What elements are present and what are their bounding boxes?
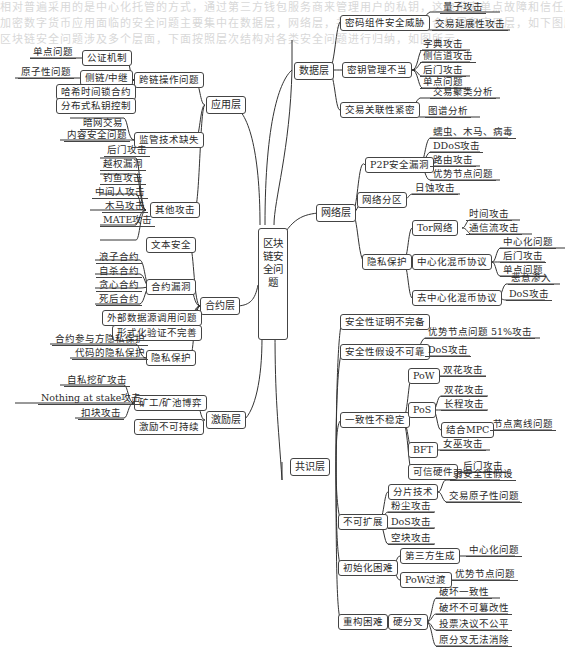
consensus-unstable: 一致性不稳定 bbox=[340, 412, 410, 428]
leaf: 代码的隐私保护 bbox=[72, 346, 148, 360]
leaf: 粉尘攻击 bbox=[388, 499, 434, 513]
leaf: 优势节点问题 bbox=[452, 567, 518, 581]
contract-text-security: 文本安全 bbox=[146, 237, 196, 253]
leaf: 中心化问题 bbox=[500, 235, 556, 249]
app-other-attacks: 其他攻击 bbox=[150, 202, 200, 218]
root-node-blockchain-security: 区块链安全问题 bbox=[258, 228, 288, 340]
contract-vulnerability: 合约漏洞 bbox=[146, 279, 196, 295]
leaf: 木马攻击 bbox=[102, 199, 148, 213]
consensus-proof-incomplete: 安全性证明不完备 bbox=[340, 314, 430, 330]
leaf: Nothing at stake攻击 bbox=[38, 391, 144, 405]
leaf: 图谱分析 bbox=[425, 104, 471, 118]
data-key-mgmt: 密钥管理不当 bbox=[342, 62, 412, 78]
leaf: 合约参与方隐私保护 bbox=[52, 332, 148, 346]
leaf: 女巫攻击 bbox=[440, 437, 486, 451]
leaf: 交易原子性问题 bbox=[446, 489, 522, 503]
leaf: 双花攻击 bbox=[440, 363, 486, 377]
leaf: 蠕虫、木马、病毒 bbox=[430, 125, 516, 139]
consensus-rebuild-difficulty: 重构困难 bbox=[338, 614, 388, 630]
app-notary: 公证机制 bbox=[82, 50, 132, 66]
leaf: 原子性问题 bbox=[18, 65, 74, 79]
leaf: 后门攻击 bbox=[104, 143, 150, 157]
leaf: 后门攻击 bbox=[500, 249, 546, 263]
leaf: DDoS攻击 bbox=[430, 139, 483, 153]
leaf: 原分叉无法消除 bbox=[436, 633, 512, 647]
layer-consensus: 共识层 bbox=[290, 458, 330, 476]
consensus-third-party: 第三方生成 bbox=[400, 548, 460, 564]
leaf: 空块攻击 bbox=[388, 531, 434, 545]
layer-network: 网络层 bbox=[316, 204, 356, 222]
leaf: 自杀合约 bbox=[96, 264, 142, 278]
incentive-unsustainable: 激励不可持续 bbox=[134, 419, 204, 435]
leaf: 日蚀攻击 bbox=[412, 181, 458, 195]
leaf: MATE攻击 bbox=[100, 213, 155, 227]
leaf: 钓鱼攻击 bbox=[100, 171, 146, 185]
contract-external-data: 外部数据源调用问题 bbox=[102, 310, 202, 326]
leaf: 中间人攻击 bbox=[92, 185, 148, 199]
network-partition: 网络分区 bbox=[357, 192, 407, 208]
leaf: 死后合约 bbox=[96, 292, 142, 306]
layer-application: 应用层 bbox=[206, 96, 246, 114]
consensus-bft: BFT bbox=[408, 442, 438, 458]
consensus-hard-fork: 硬分叉 bbox=[388, 614, 428, 630]
consensus-pos: PoS bbox=[408, 402, 436, 418]
network-central-mixing: 中心化混币协议 bbox=[412, 254, 492, 270]
layer-contract: 合约层 bbox=[200, 297, 240, 315]
leaf: 破坏不可篡改性 bbox=[436, 601, 512, 615]
leaf: 自私挖矿攻击 bbox=[64, 373, 130, 387]
consensus-init-difficulty: 初始化困难 bbox=[338, 560, 398, 576]
leaf: 越权漏洞 bbox=[100, 157, 146, 171]
incentive-miner-game: 矿工/矿池博弈 bbox=[134, 395, 207, 411]
leaf: 浪子合约 bbox=[96, 250, 142, 264]
app-distributed-key: 分布式私钥控制 bbox=[56, 98, 136, 114]
network-decentral-mixing: 去中心化混币协议 bbox=[412, 290, 502, 306]
leaf: 通信流攻击 bbox=[466, 221, 522, 235]
leaf: 恶意渗入 bbox=[508, 271, 554, 285]
leaf: 交易延展性攻击 bbox=[432, 17, 508, 31]
leaf: 中心化问题 bbox=[466, 543, 522, 557]
leaf: 双花攻击 bbox=[441, 383, 487, 397]
network-tor: Tor网络 bbox=[412, 220, 458, 236]
contract-privacy: 隐私保护 bbox=[146, 350, 196, 366]
leaf: DoS攻击 bbox=[506, 287, 552, 301]
layer-data: 数据层 bbox=[294, 62, 334, 80]
leaf: 51%攻击 bbox=[488, 325, 535, 339]
leaf: 时间攻击 bbox=[466, 207, 512, 221]
leaf: 投票决议不公平 bbox=[436, 617, 512, 631]
leaf: 内容安全问题 bbox=[64, 128, 130, 142]
network-privacy: 隐私保护 bbox=[362, 254, 412, 270]
leaf: 优势节点问题 bbox=[425, 325, 491, 339]
layer-incentive: 激励层 bbox=[206, 411, 246, 429]
app-cross-chain: 跨链操作问题 bbox=[134, 72, 204, 88]
leaf: 交易聚类分析 bbox=[430, 85, 496, 99]
leaf: DoS攻击 bbox=[425, 343, 471, 357]
consensus-sharding: 分片技术 bbox=[388, 484, 438, 500]
consensus-pow: PoW bbox=[408, 368, 440, 384]
leaf: 扣块攻击 bbox=[78, 406, 124, 420]
data-tx-linkage: 交易关联性紧密 bbox=[340, 102, 420, 118]
leaf: 单点问题 bbox=[30, 45, 76, 59]
leaf: 破坏一致性 bbox=[436, 585, 492, 599]
leaf: DoS攻击 bbox=[388, 515, 434, 529]
data-crypto-threat: 密码组件安全威胁 bbox=[340, 15, 430, 31]
leaf: 贪心合约 bbox=[96, 278, 142, 292]
leaf: 优势节点问题 bbox=[430, 167, 496, 181]
consensus-pos-mpc: 结合MPC bbox=[441, 422, 494, 438]
consensus-unscalable: 不可扩展 bbox=[338, 514, 388, 530]
network-p2p: P2P安全漏洞 bbox=[365, 157, 434, 173]
leaf: 长程攻击 bbox=[441, 397, 487, 411]
consensus-assumption-unreliable: 安全性假设不可靠 bbox=[340, 344, 430, 360]
leaf: 量子攻击 bbox=[440, 0, 486, 14]
leaf: 侧信道攻击 bbox=[420, 49, 476, 63]
leaf: 节点离线问题 bbox=[490, 417, 556, 431]
leaf: 路由攻击 bbox=[430, 153, 476, 167]
leaf: 弱安全性假设 bbox=[450, 467, 516, 481]
